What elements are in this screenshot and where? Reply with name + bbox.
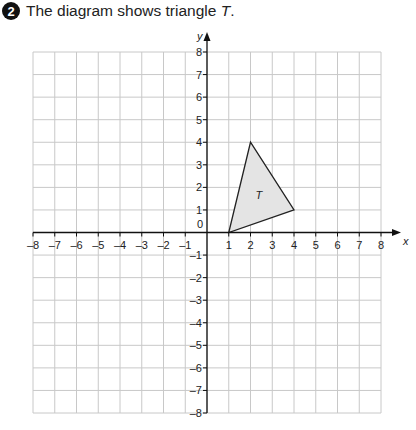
y-tick-label: 4 bbox=[196, 136, 202, 148]
y-tick-label: –2 bbox=[190, 272, 202, 284]
x-tick-label: –5 bbox=[92, 239, 104, 251]
x-tick-label: –2 bbox=[157, 239, 169, 251]
x-tick-label: –7 bbox=[49, 239, 61, 251]
x-tick-label: 1 bbox=[226, 239, 232, 251]
x-axis-label: x bbox=[402, 235, 409, 247]
x-tick-label: –6 bbox=[70, 239, 82, 251]
x-tick-label: –3 bbox=[136, 239, 148, 251]
y-tick-label: –5 bbox=[190, 339, 202, 351]
y-axis-label: y bbox=[196, 30, 204, 42]
y-tick-label: –6 bbox=[190, 362, 202, 374]
coordinate-grid: Txy0–8–7–6–5–4–3–2–11234567887654321–1–2… bbox=[0, 0, 416, 430]
y-tick-label: 2 bbox=[196, 181, 202, 193]
x-axis-arrow-icon bbox=[392, 229, 401, 236]
y-tick-label: –7 bbox=[190, 384, 202, 396]
x-tick-label: 3 bbox=[269, 239, 275, 251]
x-tick-label: 5 bbox=[313, 239, 319, 251]
origin-label: 0 bbox=[197, 218, 203, 230]
y-tick-label: –8 bbox=[190, 407, 202, 419]
y-tick-label: 6 bbox=[196, 91, 202, 103]
y-tick-label: 7 bbox=[196, 69, 202, 81]
y-tick-label: 3 bbox=[196, 159, 202, 171]
x-tick-label: 2 bbox=[247, 239, 253, 251]
y-tick-label: –3 bbox=[190, 294, 202, 306]
y-tick-label: –1 bbox=[190, 249, 202, 261]
y-tick-label: 1 bbox=[196, 204, 202, 216]
x-tick-label: 8 bbox=[378, 239, 384, 251]
x-tick-label: –4 bbox=[114, 239, 126, 251]
x-tick-label: –8 bbox=[27, 239, 39, 251]
y-axis-arrow-icon bbox=[204, 32, 211, 41]
y-tick-label: 8 bbox=[196, 46, 202, 58]
x-tick-label: 6 bbox=[334, 239, 340, 251]
x-tick-label: 4 bbox=[291, 239, 297, 251]
x-tick-label: 7 bbox=[356, 239, 362, 251]
y-tick-label: –4 bbox=[190, 317, 202, 329]
y-tick-label: 5 bbox=[196, 114, 202, 126]
